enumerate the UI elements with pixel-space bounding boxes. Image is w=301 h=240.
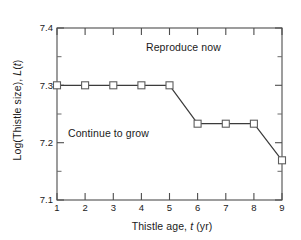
data-markers [54, 82, 286, 164]
x-tick-label-6: 6 [188, 203, 208, 213]
y-axis-title-italic-t: t [11, 63, 23, 66]
data-point-1 [54, 82, 61, 89]
data-point-7 [222, 120, 229, 127]
x-tick-label-7: 7 [216, 203, 236, 213]
data-point-8 [250, 120, 257, 127]
y-axis-title-post: ) [11, 60, 23, 64]
x-axis-title: Thistle age, t (yr) [52, 220, 292, 232]
x-tick-label-4: 4 [131, 203, 151, 213]
data-point-4 [138, 82, 145, 89]
data-point-5 [166, 82, 173, 89]
data-point-2 [82, 82, 89, 89]
annotation-reproduce-now: Reproduce now [146, 41, 221, 53]
y-axis-title-pre: Log(Thistle size), [11, 76, 23, 161]
x-tick-label-2: 2 [75, 203, 95, 213]
thistle-threshold-chart: 7.4 7.3 7.2 7.1 1 2 3 4 5 6 7 8 9 Reprod… [0, 0, 301, 240]
plot-frame [57, 28, 282, 200]
y-axis-title-italic-L: L [11, 70, 23, 76]
threshold-line [57, 85, 282, 160]
data-point-6 [194, 120, 201, 127]
y-major-ticks [57, 28, 282, 200]
data-point-9 [279, 157, 286, 164]
y-axis-title-mid: ( [11, 66, 23, 70]
y-axis-title: Log(Thistle size), L(t) [11, 25, 23, 195]
x-axis-title-pre: Thistle age, [132, 220, 191, 232]
x-axis-title-post: (yr) [193, 220, 212, 232]
x-tick-label-8: 8 [244, 203, 264, 213]
x-tick-label-9: 9 [272, 203, 292, 213]
x-major-ticks [57, 28, 282, 200]
x-tick-label-1: 1 [47, 203, 67, 213]
y-minor-ticks [57, 57, 282, 172]
x-tick-label-5: 5 [160, 203, 180, 213]
annotation-continue-to-grow: Continue to grow [68, 127, 149, 139]
x-tick-label-3: 3 [103, 203, 123, 213]
data-point-3 [110, 82, 117, 89]
